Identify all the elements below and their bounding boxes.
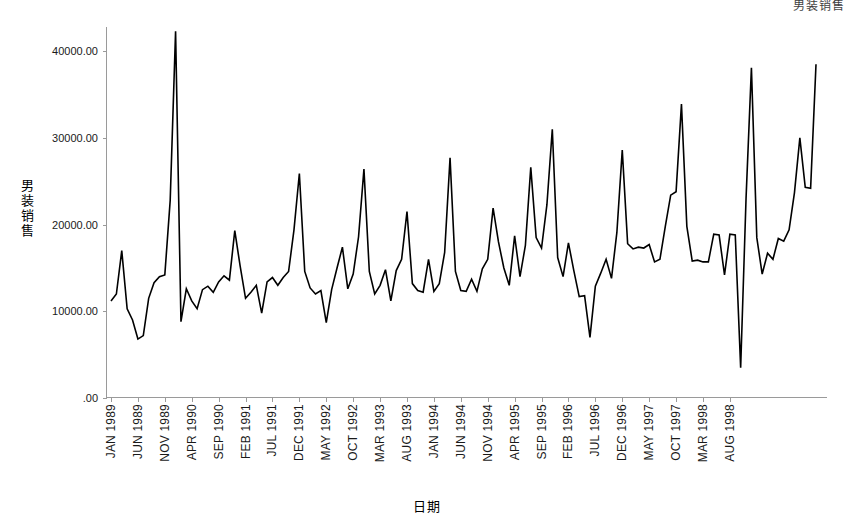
y-tick-label: .00	[0, 392, 98, 404]
x-tick-mark	[649, 398, 650, 402]
x-tick-mark	[326, 398, 327, 402]
x-tick-label: JUL 1991	[265, 404, 279, 457]
x-tick-label: NOV 1994	[481, 404, 495, 462]
x-tick-mark	[568, 398, 569, 402]
x-tick-mark	[138, 398, 139, 402]
x-tick-mark	[461, 398, 462, 402]
x-tick-label: JUL 1996	[588, 404, 602, 457]
x-tick-label: MAR 1998	[696, 404, 710, 462]
chart-container: 男装销售 男装销售 40000.0030000.0020000.0010000.…	[0, 0, 853, 519]
y-tick-label: 10000.00	[0, 305, 98, 317]
plot-area	[107, 27, 826, 398]
x-tick-mark	[272, 398, 273, 402]
x-tick-mark	[219, 398, 220, 402]
x-tick-label: JAN 1989	[104, 404, 118, 458]
x-tick-mark	[542, 398, 543, 402]
x-tick-mark	[380, 398, 381, 402]
x-tick-label: FEB 1996	[561, 404, 575, 459]
x-tick-label: MAY 1992	[319, 404, 333, 461]
y-tick-label: 40000.00	[0, 45, 98, 57]
x-tick-label: OCT 1997	[669, 404, 683, 461]
x-tick-mark	[595, 398, 596, 402]
x-tick-mark	[111, 398, 112, 402]
x-tick-label: JUN 1994	[454, 404, 468, 459]
x-tick-mark	[622, 398, 623, 402]
x-tick-mark	[488, 398, 489, 402]
x-axis-title: 日期	[0, 496, 853, 515]
x-tick-label: FEB 1991	[239, 404, 253, 459]
x-tick-mark	[299, 398, 300, 402]
x-tick-mark	[192, 398, 193, 402]
y-tick-label: 20000.00	[0, 219, 98, 231]
x-tick-label: MAR 1993	[373, 404, 387, 462]
x-tick-mark	[246, 398, 247, 402]
x-tick-label: DEC 1996	[615, 404, 629, 461]
x-tick-label: JAN 1994	[427, 404, 441, 458]
x-tick-label: OCT 1992	[346, 404, 360, 461]
x-tick-mark	[676, 398, 677, 402]
x-tick-mark	[703, 398, 704, 402]
x-tick-label: JUN 1989	[131, 404, 145, 459]
x-tick-mark	[515, 398, 516, 402]
x-tick-label: DEC 1991	[292, 404, 306, 461]
corner-title: 男装销售	[793, 0, 845, 13]
y-tick-label: 30000.00	[0, 132, 98, 144]
x-tick-label: AUG 1998	[723, 404, 737, 462]
sales-line-series	[107, 27, 826, 398]
x-tick-mark	[730, 398, 731, 402]
x-tick-mark	[165, 398, 166, 402]
x-tick-label: NOV 1989	[158, 404, 172, 462]
x-tick-label: APR 1990	[185, 404, 199, 460]
x-tick-label: AUG 1993	[400, 404, 414, 462]
x-tick-label: APR 1995	[508, 404, 522, 460]
x-tick-label: SEP 1990	[212, 404, 226, 459]
y-tick-mark	[103, 398, 107, 399]
x-tick-label: SEP 1995	[535, 404, 549, 459]
x-tick-mark	[353, 398, 354, 402]
x-tick-mark	[407, 398, 408, 402]
series-polyline	[111, 31, 816, 367]
x-tick-mark	[434, 398, 435, 402]
x-tick-label: MAY 1997	[642, 404, 656, 461]
